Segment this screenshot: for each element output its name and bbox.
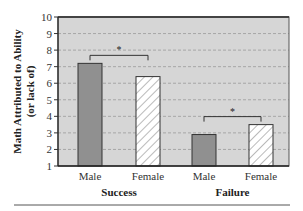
x-category-label: Female [132, 170, 164, 182]
significance-star: * [230, 106, 235, 117]
group-label-failure: Failure [215, 186, 249, 198]
y-tick-label: 9 [47, 28, 53, 40]
x-category-label: Female [245, 170, 277, 182]
axis-labels: MaleFemaleSuccessMaleFemaleFailure [79, 170, 278, 198]
y-tick-label: 1 [47, 160, 53, 172]
bar-failure-male [192, 135, 216, 166]
y-axis-label-line: Math Attributed to Ability [11, 29, 23, 154]
bar-chart: ** 12345678910 MaleFemaleSuccessMaleFema… [0, 0, 303, 211]
y-tick-label: 10 [41, 11, 53, 23]
y-tick-label: 4 [47, 110, 53, 122]
bar-failure-female [249, 125, 273, 166]
y-tick-label: 6 [47, 77, 53, 89]
group-label-success: Success [101, 186, 137, 198]
y-tick-label: 2 [47, 143, 53, 155]
bar-success-male [78, 63, 102, 166]
y-tick-label: 7 [47, 61, 53, 73]
y-tick-label: 5 [47, 94, 53, 106]
bar-success-female [136, 77, 160, 166]
x-category-label: Male [79, 170, 102, 182]
significance-star: * [117, 44, 122, 55]
x-category-label: Male [193, 170, 216, 182]
y-axis-label-line: (or lack of) [24, 65, 37, 117]
y-tick-label: 3 [47, 127, 53, 139]
y-tick-label: 8 [47, 44, 53, 56]
